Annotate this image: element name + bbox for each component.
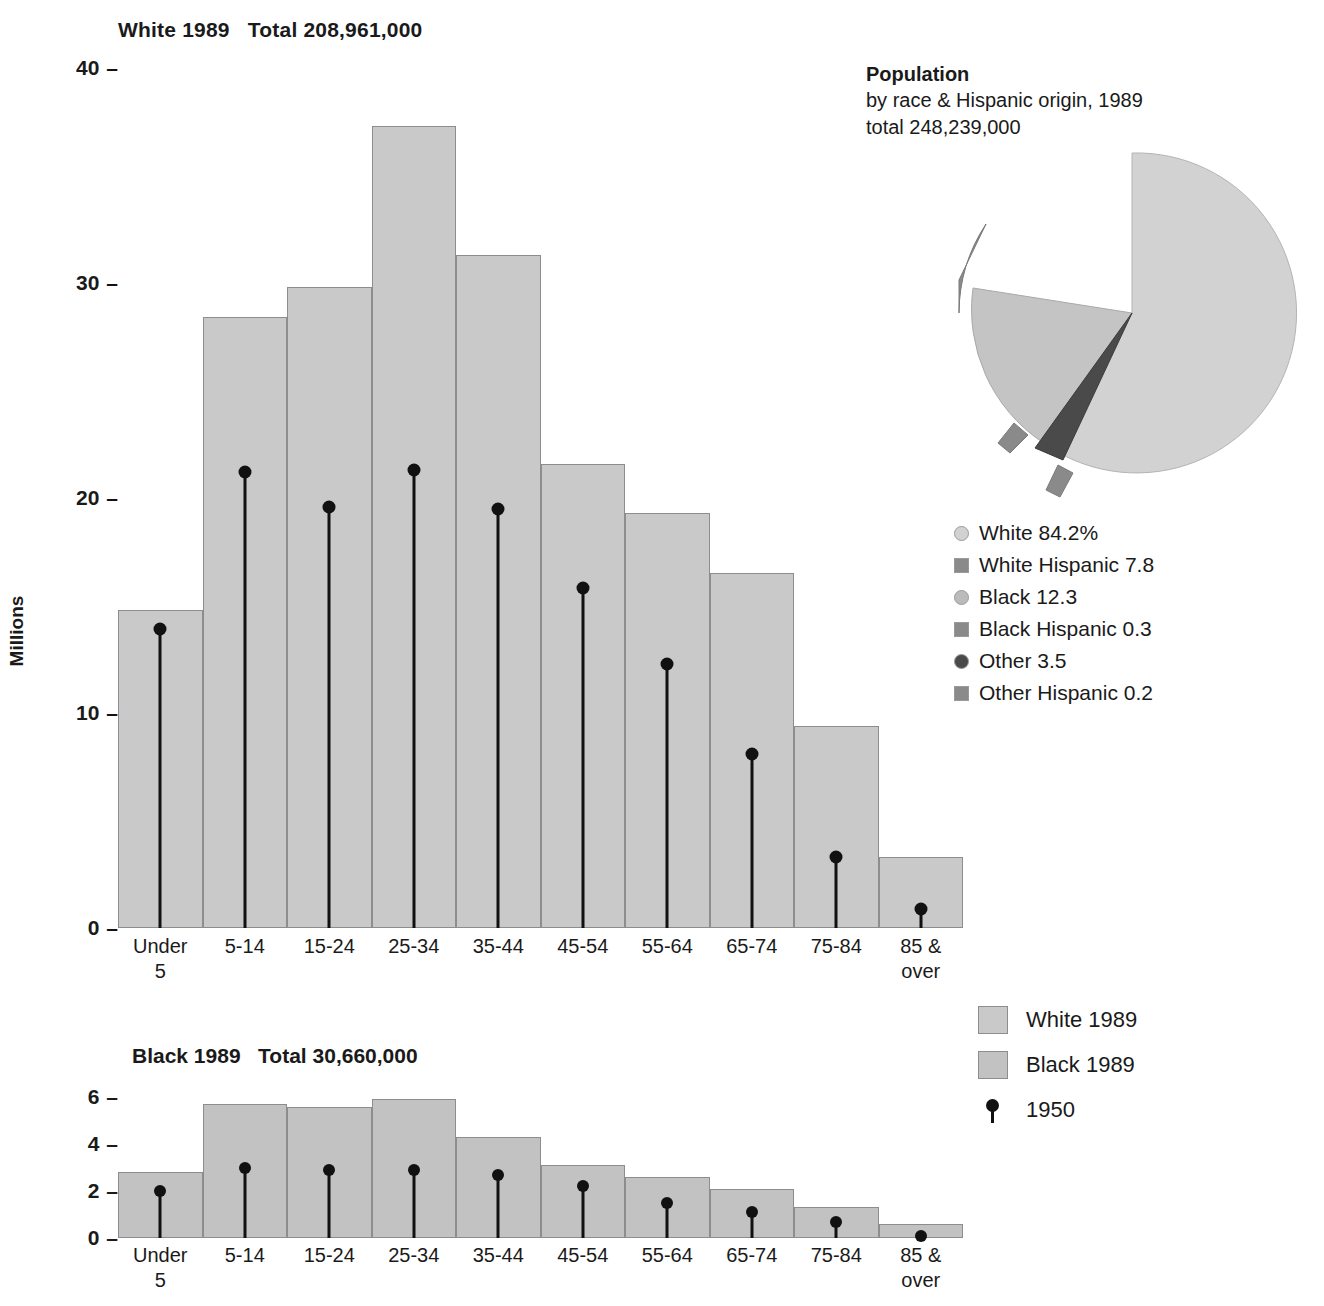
y-tick-label: 20 [76,486,99,509]
black-population-chart: Black 1989 Total 30,660,000 0–2–4–6– Und… [0,1035,980,1306]
series-legend-item-1[interactable]: Black 1989 [978,1042,1308,1087]
y-tick-label: 10 [76,701,99,724]
marker-1950-dot-white-2 [323,500,336,513]
y-tick-label: 0 [88,916,100,939]
x-tick-label-black-7: 65-74 [710,1243,795,1268]
marker-1950-stem-white-2 [328,507,331,928]
series-legend-label: Black 1989 [1026,1052,1135,1078]
pie-chart-legend: White 84.2%White Hispanic 7.8Black 12.3B… [954,517,1314,709]
y-tick-dash-icon: – [106,1132,118,1156]
series-legend-item-2[interactable]: 1950 [978,1087,1308,1132]
marker-1950-stem-white-7 [750,754,753,928]
y-tick-dash-icon: – [106,56,118,80]
x-tick-label-white-5: 45-54 [541,934,626,959]
y-axis-title-millions: Millions [6,581,28,681]
y-tick-black-1: 2– [88,1179,118,1203]
x-tick-label-black-5: 45-54 [541,1243,626,1268]
marker-1950-dot-black-7 [746,1206,758,1218]
marker-1950-dot-white-7 [745,747,758,760]
marker-1950-stem-black-2 [328,1170,331,1238]
pie-legend-label: Black Hispanic 0.3 [979,617,1152,641]
y-tick-label: 4 [88,1132,100,1155]
y-tick-white-0: 0– [88,916,118,940]
y-tick-dash-icon: – [106,1085,118,1109]
x-tick-label-white-4: 35-44 [456,934,541,959]
black-chart-title: Black 1989 Total 30,660,000 [132,1044,418,1068]
marker-1950-dot-white-5 [576,582,589,595]
y-tick-dash-icon: – [106,1179,118,1203]
series-legend: White 1989Black 19891950 [978,997,1308,1132]
x-tick-label-black-4: 35-44 [456,1243,541,1268]
pie-legend-item-5[interactable]: Other Hispanic 0.2 [954,677,1314,709]
marker-1950-dot-white-1 [238,466,251,479]
marker-1950-dot-white-8 [830,851,843,864]
marker-1950-dot-black-3 [408,1164,420,1176]
pie-legend-label: White 84.2% [979,521,1098,545]
pie-legend-item-3[interactable]: Black Hispanic 0.3 [954,613,1314,645]
y-tick-dash-icon: – [106,1226,118,1250]
pie-legend-item-2[interactable]: Black 12.3 [954,581,1314,613]
marker-1950-dot-white-0 [154,623,167,636]
y-tick-white-2: 20– [76,486,118,510]
marker-1950-dot-white-4 [492,502,505,515]
marker-1950-stem-black-4 [497,1175,500,1238]
legend-square-icon [954,622,969,637]
pie-legend-item-4[interactable]: Other 3.5 [954,645,1314,677]
x-tick-label-black-8: 75-84 [794,1243,879,1268]
y-tick-black-3: 6– [88,1085,118,1109]
black-chart-plot-area [118,1083,963,1238]
y-tick-label: 6 [88,1085,100,1108]
series-legend-item-0[interactable]: White 1989 [978,997,1308,1042]
x-tick-label-black-2: 15-24 [287,1243,372,1268]
marker-1950-stem-white-0 [159,629,162,928]
y-tick-white-3: 30– [76,271,118,295]
marker-1950-stem-white-5 [581,588,584,928]
y-tick-label: 40 [76,56,99,79]
x-tick-label-white-0: Under 5 [118,934,203,984]
y-tick-white-1: 10– [76,701,118,725]
white-chart-title: White 1989 Total 208,961,000 [118,18,422,42]
pie-legend-item-1[interactable]: White Hispanic 7.8 [954,549,1314,581]
legend-square-icon [954,558,969,573]
marker-1950-stem-white-8 [835,857,838,928]
marker-1950-dot-black-8 [830,1216,842,1228]
legend-pin-marker-icon [978,1096,1008,1124]
y-tick-dash-icon: – [106,271,118,295]
pie-legend-item-0[interactable]: White 84.2% [954,517,1314,549]
y-tick-label: 2 [88,1179,100,1202]
pie-legend-label: White Hispanic 7.8 [979,553,1154,577]
marker-1950-stem-black-0 [159,1191,162,1238]
marker-1950-stem-white-4 [497,509,500,928]
marker-1950-dot-black-1 [239,1162,251,1174]
legend-swatch-icon [978,1006,1008,1034]
y-tick-dash-icon: – [106,486,118,510]
y-tick-black-2: 4– [88,1132,118,1156]
marker-1950-stem-white-6 [666,664,669,928]
y-tick-dash-icon: – [106,916,118,940]
pin-stem-icon [991,1109,994,1123]
x-tick-label-white-1: 5-14 [203,934,288,959]
marker-1950-dot-white-9 [914,902,927,915]
x-tick-label-black-0: Under 5 [118,1243,203,1293]
x-tick-label-white-7: 65-74 [710,934,795,959]
y-tick-dash-icon: – [106,701,118,725]
y-tick-white-4: 40– [76,56,118,80]
marker-1950-dot-white-6 [661,657,674,670]
marker-1950-dot-black-2 [323,1164,335,1176]
x-tick-label-white-8: 75-84 [794,934,879,959]
legend-swatch-icon [978,1051,1008,1079]
pie-chart-graphic [932,128,1312,498]
pie-legend-label: Other Hispanic 0.2 [979,681,1153,705]
legend-square-icon [954,686,969,701]
marker-1950-stem-black-5 [581,1186,584,1238]
marker-1950-dot-black-4 [492,1169,504,1181]
pie-svg [932,128,1312,498]
x-tick-label-white-6: 55-64 [625,934,710,959]
marker-1950-dot-white-3 [407,464,420,477]
x-tick-label-white-2: 15-24 [287,934,372,959]
x-tick-label-black-9: 85 & over [879,1243,964,1293]
pie-legend-label: Other 3.5 [979,649,1067,673]
black-chart-y-axis: 0–2–4–6– [40,1083,118,1238]
black-chart-x-axis: Under 55-1415-2425-3435-4445-5455-6465-7… [118,1243,963,1305]
white-chart-x-axis: Under 55-1415-2425-3435-4445-5455-6465-7… [118,934,963,996]
